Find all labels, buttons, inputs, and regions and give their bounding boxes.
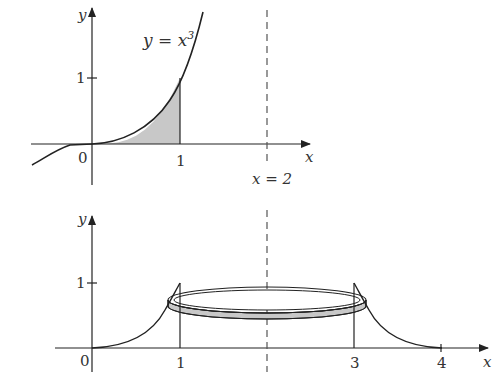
x-tick-label-4: 4 <box>437 354 447 372</box>
x-axis-label: x <box>305 148 314 166</box>
bottom-plot: y x 0 1 1 3 4 <box>55 210 492 372</box>
right-curve <box>354 283 442 348</box>
top-plot: y x 0 1 1 y = x3 x = 2 <box>31 6 314 188</box>
left-curve <box>92 283 180 348</box>
x-axis-label: x <box>483 353 492 371</box>
curve-label: y = x3 <box>142 29 194 50</box>
x-tick-label-3: 3 <box>350 354 360 372</box>
origin-label: 0 <box>78 149 88 167</box>
x-tick-label: 1 <box>176 152 186 170</box>
figure: y x 0 1 1 y = x3 x = 2 y x 0 1 <box>0 0 499 372</box>
asymptote-label: x = 2 <box>252 170 292 188</box>
cylindrical-shell <box>168 287 366 319</box>
shaded-region <box>92 78 180 144</box>
y-tick-label: 1 <box>76 274 86 292</box>
y-axis-label: y <box>77 6 87 24</box>
origin-label: 0 <box>80 352 90 370</box>
y-axis-label: y <box>77 210 87 228</box>
x-tick-label-1: 1 <box>176 354 186 372</box>
y-tick-label: 1 <box>76 69 86 87</box>
